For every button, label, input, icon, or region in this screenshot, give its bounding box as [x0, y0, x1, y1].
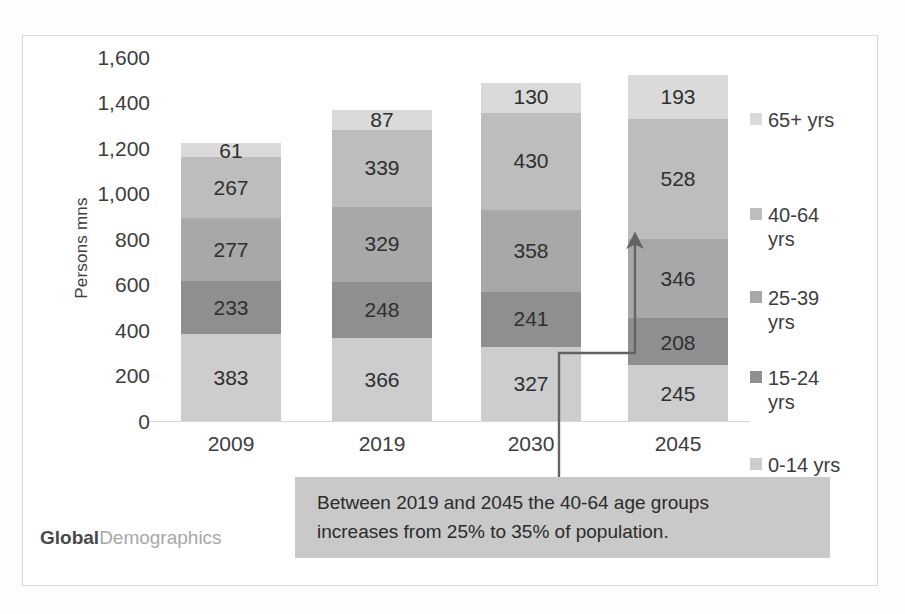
bar-value-label-65plus: 61 [181, 139, 281, 161]
legend-label: 0-14 yrs [768, 453, 840, 477]
legend-item-25-39[interactable]: 25-39 yrs [750, 286, 828, 335]
bar-value-label-0-14: 327 [481, 372, 581, 394]
brand-logo: GlobalDemographics [40, 527, 222, 549]
value-text: 245 [660, 383, 695, 404]
bar-value-label-65plus: 193 [628, 85, 728, 107]
value-text: 366 [364, 369, 399, 390]
y-tick-label: 600 [60, 274, 150, 295]
chart-plot-area: Persons mns 1,600 1,400 1,200 1,000 800 … [0, 0, 905, 614]
brand-light-text: Demographics [99, 527, 222, 548]
callout-line-1: Between 2019 and 2045 the 40-64 age grou… [317, 489, 812, 518]
value-text: 61 [219, 140, 242, 161]
bar-value-label-40-64: 267 [181, 176, 281, 198]
legend-item-15-24[interactable]: 15-24 yrs [750, 366, 828, 415]
brand-bold-text: Global [40, 527, 99, 548]
legend-label: 40-64 yrs [768, 203, 828, 252]
value-text: 193 [660, 86, 695, 107]
value-text: 241 [513, 308, 548, 329]
value-text: 528 [660, 168, 695, 189]
bar-value-label-40-64: 430 [481, 149, 581, 171]
legend-swatch-icon [750, 458, 762, 470]
value-text: 383 [213, 367, 248, 388]
x-tick-label-2019: 2019 [322, 432, 442, 456]
value-text: 327 [513, 373, 548, 394]
callout-line-2: increases from 25% to 35% of population. [317, 518, 812, 547]
bar-value-label-15-24: 233 [181, 296, 281, 318]
value-text: 358 [513, 240, 548, 261]
x-tick-label-2030: 2030 [471, 432, 591, 456]
bar-value-label-65plus: 130 [481, 85, 581, 107]
value-text: 430 [513, 150, 548, 171]
x-tick-label-2009: 2009 [171, 432, 291, 456]
bar-value-label-40-64: 528 [628, 167, 728, 189]
bar-2009[interactable]: 61 267 277 233 383 [181, 143, 281, 421]
y-tick-label: 800 [60, 229, 150, 250]
legend-label: 65+ yrs [768, 108, 834, 132]
value-text: 233 [213, 297, 248, 318]
legend-label: 25-39 yrs [768, 286, 828, 335]
y-axis-tick-labels: 1,600 1,400 1,200 1,000 800 600 400 200 … [58, 0, 150, 614]
bar-value-label-25-39: 358 [481, 239, 581, 261]
bar-value-label-15-24: 248 [332, 298, 432, 320]
bar-value-label-0-14: 245 [628, 382, 728, 404]
value-text: 339 [364, 157, 399, 178]
value-text: 329 [364, 233, 399, 254]
bar-value-label-25-39: 346 [628, 267, 728, 289]
legend-swatch-icon [750, 371, 762, 383]
y-tick-label: 1,600 [60, 47, 150, 68]
legend-swatch-icon [750, 208, 762, 220]
legend-label: 15-24 yrs [768, 366, 828, 415]
legend-item-65plus[interactable]: 65+ yrs [750, 108, 834, 132]
value-text: 346 [660, 268, 695, 289]
bar-value-label-25-39: 329 [332, 232, 432, 254]
legend-swatch-icon [750, 113, 762, 125]
bar-2030[interactable]: 130 430 358 241 327 [481, 83, 581, 421]
legend-swatch-icon [750, 291, 762, 303]
callout-textbox: Between 2019 and 2045 the 40-64 age grou… [295, 477, 830, 558]
bar-2019[interactable]: 87 339 329 248 366 [332, 110, 432, 421]
value-text: 267 [213, 177, 248, 198]
bar-value-label-15-24: 241 [481, 307, 581, 329]
y-tick-label: 1,000 [60, 183, 150, 204]
bar-value-label-25-39: 277 [181, 238, 281, 260]
legend-item-0-14[interactable]: 0-14 yrs [750, 453, 840, 477]
bar-value-label-65plus: 87 [332, 108, 432, 130]
y-tick-label: 1,200 [60, 138, 150, 159]
bar-value-label-40-64: 339 [332, 156, 432, 178]
x-axis-baseline [150, 421, 750, 422]
y-tick-label: 1,400 [60, 92, 150, 113]
y-tick-label: 200 [60, 365, 150, 386]
y-tick-label: 400 [60, 320, 150, 341]
value-text: 277 [213, 239, 248, 260]
bar-2045[interactable]: 193 528 346 208 245 [628, 75, 728, 421]
value-text: 208 [660, 332, 695, 353]
value-text: 248 [364, 299, 399, 320]
value-text: 87 [370, 109, 393, 130]
bar-value-label-0-14: 383 [181, 366, 281, 388]
bar-value-label-15-24: 208 [628, 331, 728, 353]
bar-value-label-0-14: 366 [332, 368, 432, 390]
screenshot-canvas: Persons mns 1,600 1,400 1,200 1,000 800 … [0, 0, 905, 614]
legend-item-40-64[interactable]: 40-64 yrs [750, 203, 828, 252]
x-tick-label-2045: 2045 [618, 432, 738, 456]
value-text: 130 [513, 86, 548, 107]
y-tick-label: 0 [60, 411, 150, 432]
